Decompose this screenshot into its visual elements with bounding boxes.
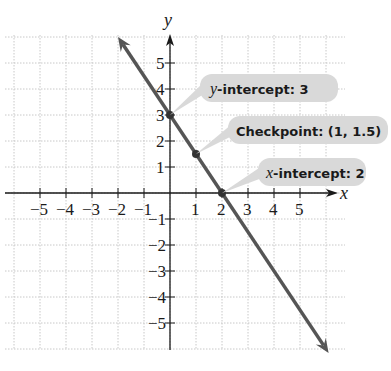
coordinate-plane: xy −5−4−3−2−112345−5−4−3−2−112345 y-inte…	[0, 0, 391, 371]
y-tick-label: −3	[148, 262, 166, 281]
line-arrow-start-icon	[118, 37, 131, 52]
y-tick-label: 5	[156, 54, 165, 73]
callout-label-variable: x	[265, 164, 273, 181]
x-tick-label: 2	[217, 200, 226, 219]
x-tick-label: 4	[269, 200, 278, 219]
y-tick-label: 3	[156, 106, 165, 125]
callout-label: y-intercept: 3	[208, 80, 308, 98]
callout-pointer	[222, 166, 262, 193]
callouts: y-intercept: 3Checkpoint: (1, 1.5)x-inte…	[170, 74, 388, 193]
x-tick-label: −3	[82, 200, 100, 219]
x-tick-label: −5	[30, 200, 48, 219]
callout-pointer	[170, 82, 204, 115]
x-tick-label: −4	[56, 200, 75, 219]
x-tick-label: 5	[295, 200, 304, 219]
x-tick-label: 1	[191, 200, 200, 219]
callout-label: x-intercept: 2	[265, 164, 364, 181]
y-tick-label: 2	[156, 132, 165, 151]
callout-label-text: Checkpoint: (1, 1.5)	[236, 124, 381, 139]
line-arrow-end-icon	[316, 338, 329, 353]
y-tick-label: −2	[148, 236, 166, 255]
callout-pointer	[196, 124, 232, 154]
callout-label-text: -intercept: 2	[273, 166, 364, 181]
y-tick-label: 1	[156, 158, 165, 177]
x-tick-label: 3	[243, 200, 252, 219]
callout-label: Checkpoint: (1, 1.5)	[236, 124, 381, 139]
x-tick-label: −2	[108, 200, 126, 219]
callout-label-text: -intercept: 3	[217, 82, 308, 97]
y-tick-label: −1	[148, 210, 166, 229]
y-tick-label: −5	[148, 314, 166, 333]
y-tick-label: −4	[148, 288, 167, 307]
y-axis-label: y	[162, 10, 172, 30]
